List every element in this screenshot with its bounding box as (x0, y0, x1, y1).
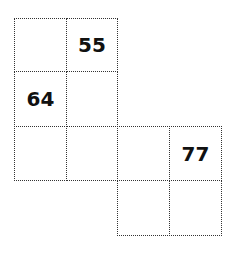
grid-cell-r0-c1: 55 (66, 18, 118, 72)
grid-cell-r1-c0: 64 (14, 71, 67, 127)
grid-cell-r2-c3: 77 (169, 126, 222, 181)
grid-cell-r3-c2 (117, 180, 170, 236)
grid-cell-r2-c1 (66, 126, 118, 181)
grid-cell-r1-c1 (66, 71, 118, 127)
grid-cell-r2-c2 (117, 126, 170, 181)
grid-cell-r2-c0 (14, 126, 67, 181)
grid-cell-r0-c0 (14, 18, 67, 72)
grid-cell-r3-c3 (169, 180, 222, 236)
